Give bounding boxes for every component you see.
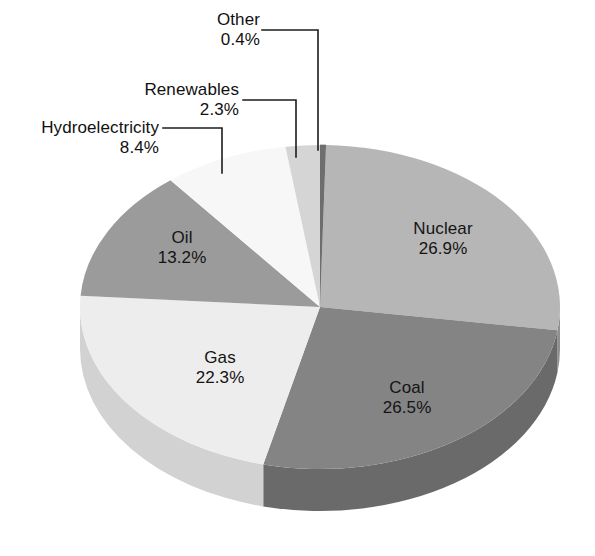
pie-chart: Other 0.4% Renewables 2.3% Hydroelectric… [0, 0, 595, 556]
slice-label-oil: Oil 13.2% [132, 228, 232, 268]
pie-top-face [80, 145, 560, 469]
callout-label-other: Other 0.4% [150, 10, 260, 50]
callout-label-other-percent: 0.4% [150, 30, 260, 50]
slice-label-gas-percent: 22.3% [168, 368, 272, 388]
callout-label-other-name: Other [150, 10, 260, 30]
callout-label-hydroelectricity-percent: 8.4% [15, 138, 159, 158]
slice-label-coal: Coal 26.5% [352, 378, 462, 418]
slice-label-oil-percent: 13.2% [132, 248, 232, 268]
slice-label-oil-name: Oil [132, 228, 232, 248]
slice-label-nuclear: Nuclear 26.9% [385, 219, 501, 259]
leader-line-other [262, 30, 318, 150]
callout-label-hydroelectricity-name: Hydroelectricity [15, 118, 159, 138]
slice-label-coal-percent: 26.5% [352, 398, 462, 418]
slice-label-nuclear-percent: 26.9% [385, 239, 501, 259]
slice-label-gas-name: Gas [168, 348, 272, 368]
slice-label-nuclear-name: Nuclear [385, 219, 501, 239]
callout-label-renewables-name: Renewables [83, 80, 239, 100]
callout-label-renewables: Renewables 2.3% [83, 80, 239, 120]
slice-label-coal-name: Coal [352, 378, 462, 398]
slice-label-gas: Gas 22.3% [168, 348, 272, 388]
callout-label-hydroelectricity: Hydroelectricity 8.4% [15, 118, 159, 158]
